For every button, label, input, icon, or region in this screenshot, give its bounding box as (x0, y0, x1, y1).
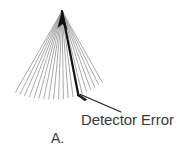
annotation-leader-line (81, 95, 122, 113)
fan-ray (62, 11, 91, 90)
panel-label: A. (51, 131, 64, 145)
fan-ray (29, 11, 62, 97)
fan-ray (62, 11, 99, 85)
ray-fan-diagram (0, 0, 193, 153)
detector-error-ray (62, 11, 79, 96)
detector-error-label: Detector Error (81, 112, 174, 127)
figure-panel: Detector Error A. (0, 0, 193, 153)
